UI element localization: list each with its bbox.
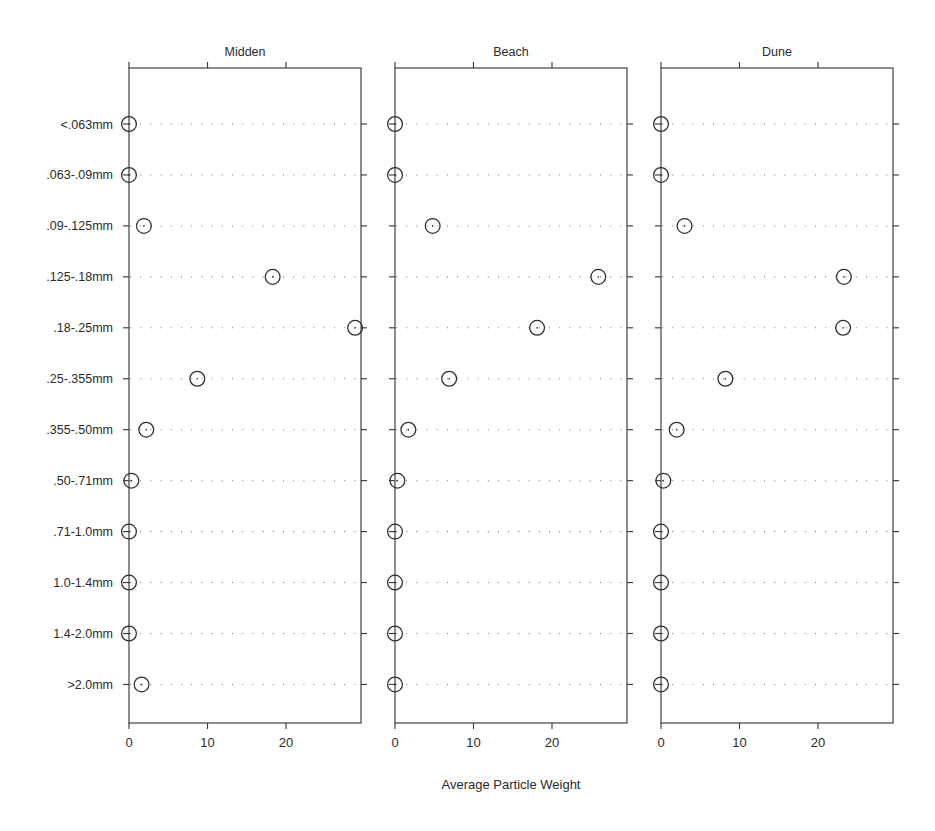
data-point-center-dune-6 [676, 429, 678, 431]
xtick-label-2-0: 0 [657, 735, 664, 750]
data-point-center-midden-7 [131, 480, 133, 482]
data-point-center-beach-1 [394, 174, 396, 176]
ytick-label-6: .355-.50mm [46, 423, 113, 437]
data-point-center-beach-2 [432, 225, 434, 227]
data-point-center-beach-10 [394, 633, 396, 635]
ytick-label-7: .50-.71mm [53, 474, 113, 488]
ytick-label-4: .18-.25mm [53, 321, 113, 335]
dot-plot-figure: <.063mm.063-.09mm.09-.125mm.125-.18mm.18… [0, 0, 935, 831]
data-point-center-midden-2 [143, 225, 145, 227]
x-axis-title: Average Particle Weight [442, 777, 581, 792]
data-point-center-beach-8 [394, 531, 396, 533]
panel-frame-dune [661, 68, 893, 723]
xtick-label-1-1: 10 [466, 735, 480, 750]
data-point-center-dune-2 [684, 225, 686, 227]
data-point-center-beach-6 [407, 429, 409, 431]
panel-title-midden: Midden [225, 45, 266, 59]
data-point-center-beach-4 [536, 327, 538, 329]
ytick-label-11: >2.0mm [67, 678, 113, 692]
xtick-label-0-1: 10 [200, 735, 214, 750]
data-point-center-dune-7 [663, 480, 665, 482]
ytick-label-2: .09-.125mm [46, 219, 113, 233]
data-point-center-beach-7 [397, 480, 399, 482]
panel-title-beach: Beach [493, 45, 528, 59]
ytick-label-1: .063-.09mm [46, 168, 113, 182]
data-point-center-beach-0 [394, 123, 396, 125]
xtick-label-0-2: 20 [279, 735, 293, 750]
data-point-center-midden-4 [354, 327, 356, 329]
data-point-center-dune-5 [725, 378, 727, 380]
panel-frame-midden [129, 68, 361, 723]
data-point-center-midden-10 [128, 633, 130, 635]
data-point-center-beach-9 [394, 582, 396, 584]
data-point-center-dune-9 [660, 582, 662, 584]
data-point-center-midden-9 [128, 582, 130, 584]
data-point-center-midden-3 [272, 276, 274, 278]
ytick-label-0: <.063mm [61, 118, 113, 132]
data-point-center-dune-10 [660, 633, 662, 635]
data-point-center-midden-0 [128, 123, 130, 125]
data-point-center-dune-11 [660, 684, 662, 686]
xtick-label-2-1: 10 [732, 735, 746, 750]
ytick-label-5: .25-.355mm [46, 372, 113, 386]
ytick-label-9: 1.0-1.4mm [53, 576, 113, 590]
data-point-center-midden-8 [128, 531, 130, 533]
xtick-label-1-0: 0 [391, 735, 398, 750]
panel-frame-beach [395, 68, 627, 723]
data-point-center-midden-6 [145, 429, 147, 431]
xtick-label-2-2: 20 [811, 735, 825, 750]
data-point-center-beach-5 [448, 378, 450, 380]
xtick-label-0-0: 0 [125, 735, 132, 750]
data-point-center-dune-1 [660, 174, 662, 176]
data-point-center-beach-11 [394, 684, 396, 686]
ytick-label-8: .71-1.0mm [53, 525, 113, 539]
data-point-center-dune-0 [660, 123, 662, 125]
data-point-center-midden-5 [196, 378, 198, 380]
data-point-center-dune-3 [843, 276, 845, 278]
ytick-label-10: 1.4-2.0mm [53, 627, 113, 641]
panel-title-dune: Dune [762, 45, 792, 59]
data-point-center-dune-8 [660, 531, 662, 533]
data-point-center-midden-1 [128, 174, 130, 176]
figure-canvas: <.063mm.063-.09mm.09-.125mm.125-.18mm.18… [0, 0, 935, 831]
xtick-label-1-2: 20 [545, 735, 559, 750]
data-point-center-beach-3 [597, 276, 599, 278]
data-point-center-dune-4 [842, 327, 844, 329]
ytick-label-3: .125-.18mm [46, 270, 113, 284]
data-point-center-midden-11 [141, 684, 143, 686]
